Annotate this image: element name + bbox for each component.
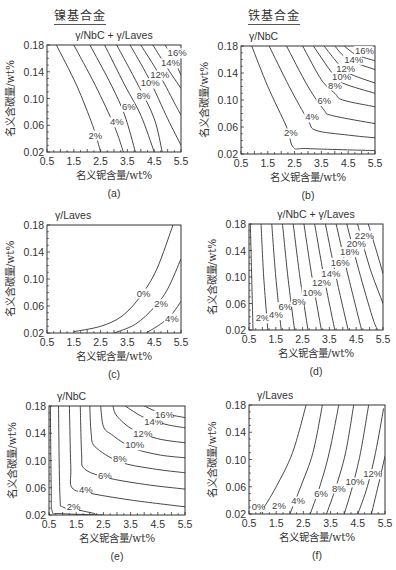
contour-label: 2% [154, 298, 168, 309]
x-tick-label: 4.5 [350, 517, 365, 529]
contour-label: 12% [150, 69, 170, 80]
contour-label: 6% [278, 301, 292, 312]
y-axis-label: 名义含碳量/wt% [198, 62, 210, 139]
panel-c: γ/Laves0.51.52.53.54.55.50.020.060.100.1… [4, 209, 188, 380]
y-tick-label: 0.18 [226, 399, 247, 411]
contour-label: 2% [256, 312, 270, 323]
contour-label: 22% [355, 230, 375, 241]
panel-a: γ/NbC + γ/Laves0.51.52.53.54.55.50.020.0… [4, 29, 188, 199]
panel-e: γ/NbC0.51.52.53.54.55.50.020.060.100.140… [6, 390, 192, 562]
x-tick-label: 3.5 [120, 155, 135, 167]
x-tick-label: 2.5 [295, 333, 310, 345]
y-tick-label: 0.18 [26, 400, 47, 412]
x-tick-label: 1.5 [66, 336, 81, 348]
x-axis-label: 名义铌含量/wt% [76, 350, 153, 362]
y-tick-label: 0.02 [226, 324, 247, 336]
x-tick-label: 2.5 [287, 157, 302, 169]
panel-label: (d) [310, 365, 323, 377]
y-tick-label: 0.06 [26, 482, 47, 494]
y-tick-label: 0.10 [226, 271, 247, 283]
x-tick-label: 2.5 [93, 336, 108, 348]
x-tick-label: 5.5 [178, 518, 193, 530]
contour-label: 10% [125, 439, 145, 450]
y-tick-label: 0.18 [218, 40, 239, 52]
contour-label: 16% [155, 409, 175, 420]
y-tick-label: 0.06 [226, 298, 247, 310]
contour-label: 2% [272, 500, 286, 511]
x-tick-label: 5.5 [368, 157, 383, 169]
y-tick-label: 0.02 [226, 508, 247, 520]
contour-line-8pct [293, 224, 308, 330]
y-axis-label: 名义含碳量/wt% [206, 239, 218, 316]
y-tick-label: 0.02 [24, 146, 45, 158]
panel-label: (a) [108, 187, 121, 199]
x-tick-label: 5.5 [376, 333, 391, 345]
panel-label: (f) [312, 549, 322, 561]
x-axis-label: 名义铌含量/wt% [270, 171, 347, 183]
y-tick-label: 0.02 [218, 148, 239, 160]
x-tick-label: 3.5 [322, 333, 337, 345]
panel-title: γ/NbC + γ/Laves [277, 208, 354, 220]
x-tick-label: 4.5 [150, 518, 165, 530]
y-axis-label: 名义含碳量/wt% [4, 60, 16, 137]
x-axis-label: 名义铌含量/wt% [76, 169, 153, 181]
x-tick-label: 1.5 [260, 157, 275, 169]
y-tick-label: 0.14 [24, 246, 45, 258]
x-tick-label: 1.5 [268, 333, 283, 345]
contour-label: 10% [303, 287, 323, 298]
x-tick-label: 1.5 [66, 155, 81, 167]
x-tick-label: 5.5 [174, 155, 189, 167]
contour-label: 6% [122, 101, 136, 112]
panel-label: (c) [108, 368, 120, 380]
contour-label: 16% [168, 47, 188, 58]
x-tick-label: 2.5 [296, 517, 311, 529]
x-axis-label: 名义铌含量/wt% [278, 347, 355, 359]
contour-label: 14% [161, 57, 181, 68]
y-tick-label: 0.06 [24, 119, 45, 131]
contour-label: 8% [137, 90, 151, 101]
x-tick-label: 4.5 [341, 157, 356, 169]
contour-label: 4% [291, 495, 305, 506]
y-tick-label: 0.10 [26, 455, 47, 467]
panel-title: γ/Laves [55, 209, 91, 221]
x-tick-label: 3.5 [314, 157, 329, 169]
contour-label: 0% [137, 288, 151, 299]
contour-label: 6% [98, 470, 112, 481]
y-tick-label: 0.06 [226, 481, 247, 493]
contour-label: 14% [321, 268, 341, 279]
panel-b: γ/NbC0.51.52.53.54.55.50.020.060.100.140… [198, 30, 382, 201]
y-tick-label: 0.02 [24, 327, 45, 339]
plot-frame [47, 225, 181, 333]
x-tick-label: 4.5 [147, 336, 162, 348]
x-tick-label: 4.5 [349, 333, 364, 345]
y-tick-label: 0.10 [218, 94, 239, 106]
y-axis-label: 名义含碳量/wt% [4, 241, 16, 318]
x-tick-label: 5.5 [378, 517, 393, 529]
contour-label: 0% [252, 501, 266, 512]
x-tick-label: 5.5 [174, 336, 189, 348]
panel-f: γ/Laves0.51.52.53.54.55.50.020.060.100.1… [206, 389, 392, 561]
y-tick-label: 0.14 [26, 427, 47, 439]
contour-label: 2% [89, 130, 103, 141]
y-tick-label: 0.10 [226, 454, 247, 466]
contour-label: 16% [331, 257, 351, 268]
panel-d: γ/NbC + γ/Laves0.51.52.53.54.55.50.020.0… [206, 208, 390, 377]
contour-label: 12% [133, 428, 153, 439]
contour-label: 6% [314, 488, 328, 499]
y-tick-label: 0.14 [218, 67, 239, 79]
x-tick-label: 3.5 [120, 336, 135, 348]
y-tick-label: 0.06 [24, 300, 45, 312]
panel-title: γ/NbC [57, 390, 87, 402]
y-tick-label: 0.18 [24, 219, 45, 231]
y-tick-label: 0.06 [218, 121, 239, 133]
x-tick-label: 2.5 [93, 155, 108, 167]
x-axis-label: 名义铌含量/wt% [279, 531, 356, 543]
y-tick-label: 0.18 [226, 218, 247, 230]
contour-label: 8% [332, 483, 346, 494]
panel-title: γ/NbC [249, 30, 279, 42]
contour-line-6pct [283, 224, 295, 330]
contour-label: 8% [113, 453, 127, 464]
x-tick-label: 1.5 [269, 517, 284, 529]
contour-label: 4% [79, 484, 93, 495]
y-tick-label: 0.10 [24, 273, 45, 285]
